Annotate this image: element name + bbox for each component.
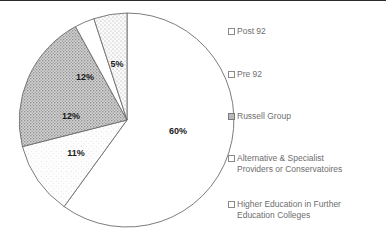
legend-label-he-in-fe-colleges: Higher Education in Further Education Co…	[237, 199, 341, 220]
pie-value-label-pre-92: 12%	[76, 72, 94, 82]
legend-item-russell-group[interactable]: Russell Group	[228, 111, 291, 122]
legend-label-post-92: Post 92	[237, 26, 266, 37]
legend-item-post-92[interactable]: Post 92	[228, 26, 266, 37]
pie-value-label-he-in-fe-colleges: 11%	[67, 148, 85, 158]
pie-value-label-russell-group: 12%	[62, 111, 80, 121]
pie-chart-figure: 60% 11% 12% 12% 5% Post 92 Pre 92 Russel…	[0, 0, 386, 238]
legend-item-pre-92[interactable]: Pre 92	[228, 69, 262, 80]
pie-value-label-post-92: 60%	[169, 126, 187, 136]
legend-label-pre-92: Pre 92	[237, 69, 262, 80]
legend-label-alternative-specialist: Alternative & Specialist Providers or Co…	[237, 153, 342, 174]
legend-swatch-russell-group	[228, 113, 235, 120]
legend-label-russell-group: Russell Group	[237, 111, 291, 122]
legend-swatch-he-in-fe-colleges	[228, 201, 235, 208]
legend-swatch-alternative-specialist	[228, 155, 235, 162]
legend-swatch-pre-92	[228, 71, 235, 78]
legend-swatch-post-92	[228, 28, 235, 35]
pie-value-label-alternative-specialist: 5%	[110, 59, 123, 69]
legend-item-he-in-fe-colleges[interactable]: Higher Education in Further Education Co…	[228, 199, 341, 220]
legend-item-alternative-specialist[interactable]: Alternative & Specialist Providers or Co…	[228, 153, 342, 174]
